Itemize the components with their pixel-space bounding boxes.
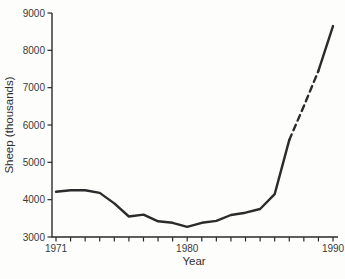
line-solid-final [318,26,333,71]
x-axis-tick-labels: 197119801990 [45,243,345,254]
sheep-population-figure: 197119801990 300040005000600070008000900… [0,0,345,279]
x-axis-title: Year [182,255,205,267]
y-tick-label-9000: 9000 [23,8,46,19]
line-chart: 197119801990 300040005000600070008000900… [0,0,345,279]
y-tick-label-4000: 4000 [23,194,46,205]
sheep-data-line [56,26,333,227]
line-dashed-projection [289,71,318,140]
y-tick-label-5000: 5000 [23,157,46,168]
y-tick-label-7000: 7000 [23,82,46,93]
x-tick-label-1971: 1971 [45,243,68,254]
y-tick-label-6000: 6000 [23,120,46,131]
y-axis-tick-labels: 3000400050006000700080009000 [23,8,46,243]
y-tick-label-8000: 8000 [23,45,46,56]
line-solid-observed [56,140,289,227]
y-axis-title: Sheep (thousands) [3,76,15,173]
y-tick-label-3000: 3000 [23,232,46,243]
x-tick-label-1990: 1990 [322,243,345,254]
x-tick-label-1980: 1980 [176,243,199,254]
